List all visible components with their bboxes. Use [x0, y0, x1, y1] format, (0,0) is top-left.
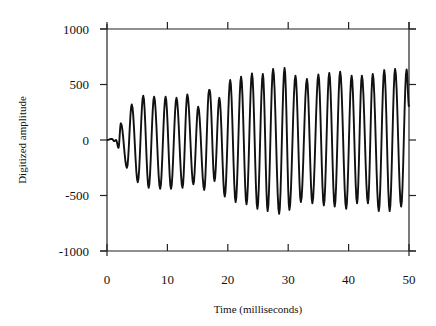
x-tick-label: 50	[403, 272, 416, 287]
y-tick-label: -500	[65, 188, 89, 203]
waveform-line	[107, 68, 409, 214]
plot-frame	[100, 22, 416, 256]
y-tick-label: 1000	[63, 22, 89, 37]
y-tick-label: 0	[83, 133, 90, 148]
y-axis-title: Digitized amplitude	[16, 96, 28, 184]
waveform-chart: 01020304050 10005000-500-1000 Time (mill…	[0, 0, 436, 326]
y-tick-label: -1000	[59, 244, 89, 259]
y-tick-label: 500	[70, 77, 90, 92]
x-tick-label: 0	[104, 272, 111, 287]
x-tick-label: 10	[161, 272, 174, 287]
x-tick-label: 20	[221, 272, 234, 287]
x-axis-title: Time (milliseconds)	[214, 303, 303, 316]
x-tick-label: 30	[282, 272, 295, 287]
x-tick-label: 40	[342, 272, 355, 287]
